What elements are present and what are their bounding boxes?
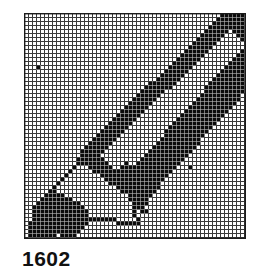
bitmap-design-grid[interactable] (24, 13, 246, 239)
pencil-bitmap-canvas[interactable] (24, 13, 246, 239)
figure-number-label: 1602 (22, 248, 71, 269)
design-plate: 1602 (0, 0, 260, 277)
